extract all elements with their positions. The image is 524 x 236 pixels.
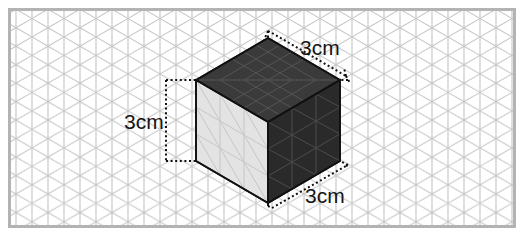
- label-bottom-right: 3cm: [305, 184, 345, 207]
- label-left: 3cm: [124, 110, 164, 133]
- isometric-cube-figure: 3cm 3cm 3cm: [0, 0, 524, 236]
- label-top-right: 3cm: [300, 36, 340, 59]
- figure-canvas: 3cm 3cm 3cm: [0, 0, 524, 236]
